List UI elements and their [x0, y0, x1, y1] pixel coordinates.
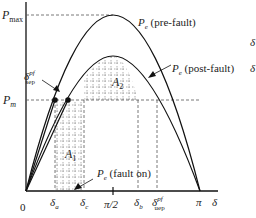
delta-b-label: δb	[134, 196, 143, 211]
delta-axis-label: δ	[212, 196, 218, 208]
post-fault-label: Pe (post-fault)	[171, 62, 234, 77]
pi-half-label: π/2	[104, 198, 119, 210]
delta-a-label: δa	[50, 196, 59, 211]
pre-fault-initial	[26, 100, 55, 191]
right-edge-delta-2: δ	[250, 62, 256, 74]
pi-label: π	[196, 196, 202, 208]
pm-label: Pm	[2, 93, 16, 109]
pre-fault-curve	[26, 15, 200, 191]
pre-fault-label: Pe (pre-fault)	[137, 16, 196, 31]
operating-point-pre	[52, 97, 58, 103]
fault-on-label: Pe (fault on)	[96, 167, 151, 182]
delta-sep-label: δpfsep	[24, 69, 36, 86]
power-angle-diagram: Pmax Pm δpfsep Pe (pre-fault) Pe (post-f…	[0, 0, 256, 218]
delta-uep-label: δpfuep	[152, 195, 165, 212]
sep-arrow	[42, 80, 60, 92]
right-edge-delta-1: δ	[250, 36, 256, 48]
operating-point-post	[65, 97, 71, 103]
pmax-label: Pmax	[1, 8, 23, 24]
origin-label: 0	[20, 201, 26, 213]
delta-c-label: δc	[80, 196, 89, 211]
